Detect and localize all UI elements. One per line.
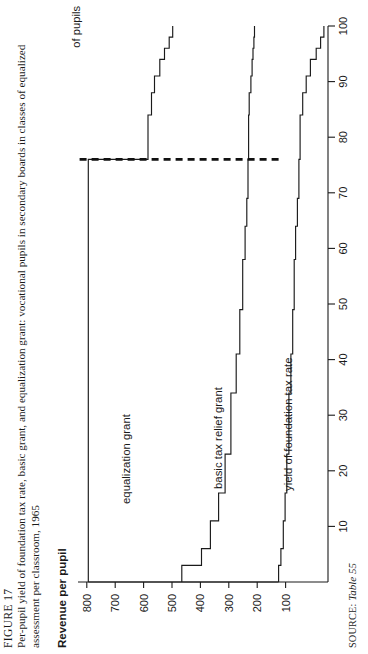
figure-page: FIGURE 17 Per-pupil yield of foundation … [0,0,368,654]
y-tick-label: 700 [109,594,121,612]
figure-caption: Per-pupil yield of foundation tax rate, … [15,8,42,648]
x-tick-label: 80 [337,131,348,143]
series-label-basic-tax-relief-grant: basic tax relief grant [212,386,224,489]
source-label: SOURCE: [347,604,358,648]
y-tick-label: 400 [194,594,206,612]
x-tick-label: 20 [337,465,348,477]
series-label-yield-of-foundation-tax-rate: yield of foundation tax rate [282,357,294,491]
curve-basic-tax-relief [182,26,255,582]
x-tick-label: 40 [337,353,348,365]
x-tick-label: 70 [337,187,348,199]
x-tick-label: 10 [337,520,348,532]
figure-number: FIGURE 17 [2,588,14,648]
y-tick-label: 300 [223,594,235,612]
x-tick-label: 30 [337,409,348,421]
x-tick-label: 50 [337,298,348,310]
x-tick-marks [328,26,335,526]
x-tick-labels: 10 20 30 40 50 60 70 80 90 100 [337,17,348,533]
y-tick-label: 500 [166,594,178,612]
x-axis-title-line2: of pupils [70,6,82,48]
x-tick-label: 90 [337,75,348,87]
y-axis-title: Revenue per pupil [56,548,68,648]
curve-foundation-tax-rate [279,26,324,582]
series-label-equalization-grant: equalization grant [120,413,132,504]
x-tick-label: 60 [337,242,348,254]
y-tick-label: 800 [81,594,93,612]
y-tick-marks [87,582,286,588]
x-tick-label: 100 [337,17,348,35]
y-tick-label: 100 [280,594,292,612]
y-tick-labels: 800 700 600 500 400 300 200 100 [81,594,292,612]
y-tick-label: 200 [251,594,263,612]
step-chart: 800 700 600 500 400 300 200 100 10 20 30 [70,0,348,654]
y-tick-label: 600 [138,594,150,612]
